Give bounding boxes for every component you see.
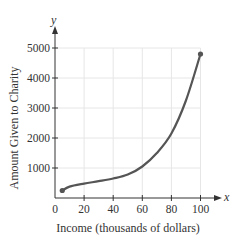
x-tick-label: 80 [166,203,178,215]
y-axis-title: Amount Given to Charity [7,67,21,190]
x-tick-label: 0 [52,203,58,215]
x-tick-label: 20 [78,203,90,215]
y-tick-label: 4000 [27,72,50,84]
tick-labels: 02040608010010002000300040005000 [27,42,209,215]
y-axis-arrow-icon [52,26,58,34]
x-axis-arrow-icon [214,195,222,201]
axes [52,26,222,201]
x-axis-variable: x [223,190,230,204]
y-tick-label: 5000 [27,42,50,54]
y-tick-label: 1000 [27,162,50,174]
x-axis-title: Income (thousands of dollars) [56,221,200,235]
chart: 02040608010010002000300040005000 x y Inc… [0,0,241,240]
y-tick-label: 2000 [27,132,50,144]
x-tick-label: 100 [192,203,210,215]
x-tick-label: 60 [137,203,149,215]
endpoint-dot [198,51,203,56]
data-curve [62,54,200,191]
x-tick-label: 40 [107,203,119,215]
endpoint-dot [60,188,65,193]
y-tick-label: 3000 [27,102,50,114]
y-axis-variable: y [50,13,57,27]
